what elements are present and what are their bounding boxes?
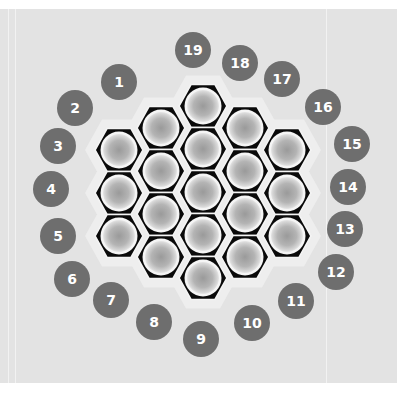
position-label-15: 15 xyxy=(334,126,370,162)
svg-text:5: 5 xyxy=(53,228,63,244)
position-label-11: 11 xyxy=(278,283,314,319)
svg-text:10: 10 xyxy=(242,315,262,331)
svg-text:7: 7 xyxy=(106,292,116,308)
position-label-7: 7 xyxy=(93,282,129,318)
position-label-19: 19 xyxy=(175,32,211,68)
svg-text:1: 1 xyxy=(114,74,124,90)
position-label-2: 2 xyxy=(57,90,93,126)
position-label-14: 14 xyxy=(330,169,366,205)
position-label-12: 12 xyxy=(318,254,354,290)
svg-text:15: 15 xyxy=(342,136,361,152)
svg-text:13: 13 xyxy=(335,221,354,237)
svg-text:8: 8 xyxy=(149,314,159,330)
svg-text:2: 2 xyxy=(70,100,80,116)
position-label-6: 6 xyxy=(54,261,90,297)
position-label-18: 18 xyxy=(222,45,258,81)
position-label-13: 13 xyxy=(327,211,363,247)
svg-text:14: 14 xyxy=(338,179,358,195)
position-label-16: 16 xyxy=(305,89,341,125)
position-label-3: 3 xyxy=(40,128,76,164)
position-label-9: 9 xyxy=(183,321,219,357)
position-label-1: 1 xyxy=(101,64,137,100)
position-label-5: 5 xyxy=(40,218,76,254)
svg-text:11: 11 xyxy=(286,293,305,309)
svg-text:12: 12 xyxy=(326,264,345,280)
svg-text:16: 16 xyxy=(313,99,332,115)
svg-text:19: 19 xyxy=(183,42,202,58)
svg-text:9: 9 xyxy=(196,331,206,347)
svg-text:3: 3 xyxy=(53,138,63,154)
svg-text:4: 4 xyxy=(46,181,56,197)
position-label-8: 8 xyxy=(136,304,172,340)
position-label-10: 10 xyxy=(234,305,270,341)
svg-text:18: 18 xyxy=(230,55,249,71)
hex-cell-grid xyxy=(95,85,311,300)
hex-bundle-diagram: 12345678910111213141516171819 xyxy=(0,0,414,398)
svg-text:17: 17 xyxy=(272,71,291,87)
svg-text:6: 6 xyxy=(67,271,77,287)
position-label-17: 17 xyxy=(264,61,300,97)
position-label-4: 4 xyxy=(33,171,69,207)
